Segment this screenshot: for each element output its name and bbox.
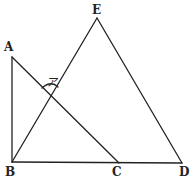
segment-ed [97,18,182,163]
point-label-b: B [5,165,15,178]
segment-bd [12,162,182,163]
point-label-d: D [179,165,189,178]
segment-ac [12,57,119,163]
point-label-e: E [92,3,101,17]
point-label-a: A [3,40,14,54]
angle-label-a: ア [46,76,59,89]
geometry-diagram: ア A B C D E [0,0,194,178]
segment-be [12,18,97,162]
point-label-c: C [112,165,122,178]
